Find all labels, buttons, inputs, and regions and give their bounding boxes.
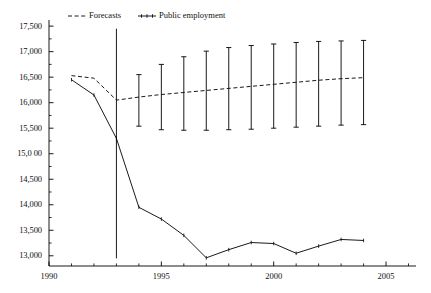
error-bar <box>249 46 254 130</box>
x-tick-label: 1990 <box>24 271 74 281</box>
y-tick-label: 14,000 <box>0 199 42 209</box>
y-tick-label: 15,500 <box>0 123 42 133</box>
y-tick-label: 14,500 <box>0 174 42 184</box>
legend-label-forecasts: Forecasts <box>89 10 121 20</box>
error-bar <box>136 75 141 127</box>
y-tick-label: 17,500 <box>0 21 42 31</box>
error-bar <box>181 57 186 130</box>
legend-label-public-employment: Public employment <box>159 10 225 20</box>
y-tick-label: 17,000 <box>0 46 42 56</box>
error-bar <box>361 40 366 124</box>
y-tick-label: 13,500 <box>0 225 42 235</box>
y-tick-label: 16,000 <box>0 97 42 107</box>
error-bar <box>159 64 164 129</box>
x-tick-label: 2000 <box>249 271 299 281</box>
y-tick-label: 13,000 <box>0 250 42 260</box>
error-bar <box>316 41 321 126</box>
y-tick-label: 16,500 <box>0 72 42 82</box>
error-bar <box>271 44 276 128</box>
x-tick-label: 2005 <box>361 271 411 281</box>
error-bar <box>294 42 299 127</box>
y-tick-label: 15,0 00 <box>0 148 42 158</box>
chart-canvas <box>0 0 431 293</box>
chart-figure: 13,00013,50014,00014,50015,0 0015,50016,… <box>0 0 431 293</box>
series-line-public-employment <box>71 80 363 258</box>
x-tick-label: 1995 <box>136 271 186 281</box>
series-line-forecasts <box>71 76 363 100</box>
error-bar <box>338 41 343 125</box>
